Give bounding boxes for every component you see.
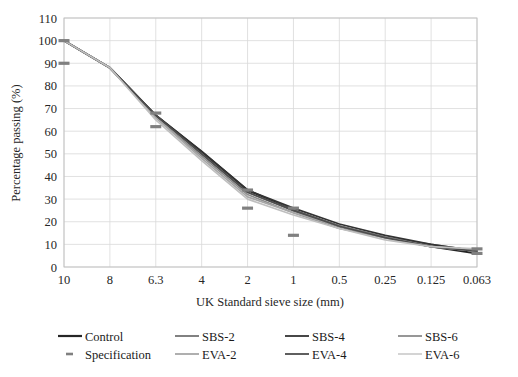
y-tick-label: 30 (45, 193, 58, 207)
y-tick-label: 0 (51, 261, 57, 275)
x-tick-label: 4 (199, 273, 206, 287)
chart-figure: 1101009080706050403020100 1086.34210.50.… (0, 0, 518, 377)
y-tick-label: 60 (45, 125, 58, 139)
y-tick-label: 90 (45, 57, 58, 71)
legend-item-label: EVA-2 (202, 348, 237, 362)
legend-item-label: EVA-4 (312, 348, 347, 362)
y-tick-label: 40 (45, 170, 58, 184)
x-tick-label: 6.3 (148, 273, 164, 287)
x-tick-label: 10 (58, 273, 71, 287)
y-tick-label: 20 (45, 215, 58, 229)
y-tick-label: 80 (45, 79, 58, 93)
chart-background (0, 0, 518, 377)
legend-item-label: SBS-2 (202, 330, 235, 344)
x-axis-title: UK Standard sieve size (mm) (196, 295, 344, 309)
y-tick-label: 50 (45, 147, 58, 161)
y-tick-label: 10 (45, 238, 58, 252)
y-tick-label: 110 (39, 12, 57, 26)
x-tick-label: 8 (107, 273, 113, 287)
legend-item-label: Control (85, 330, 124, 344)
x-tick-label: 0.5 (332, 273, 348, 287)
legend-item-label: SBS-4 (312, 330, 345, 344)
legend-item-label: SBS-6 (425, 330, 458, 344)
x-tick-label: 0.063 (463, 273, 491, 287)
x-tick-label: 2 (244, 273, 250, 287)
y-axis-title: Percentage passing (%) (9, 84, 23, 201)
y-tick-label: 100 (38, 34, 57, 48)
y-tick-label: 70 (45, 102, 58, 116)
x-tick-label: 1 (290, 273, 296, 287)
gradation-line-chart: 1101009080706050403020100 1086.34210.50.… (0, 0, 518, 377)
legend-item-label: Specification (85, 348, 152, 362)
x-tick-label: 0.25 (374, 273, 396, 287)
x-tick-label: 0.125 (417, 273, 445, 287)
legend-item-label: EVA-6 (425, 348, 460, 362)
